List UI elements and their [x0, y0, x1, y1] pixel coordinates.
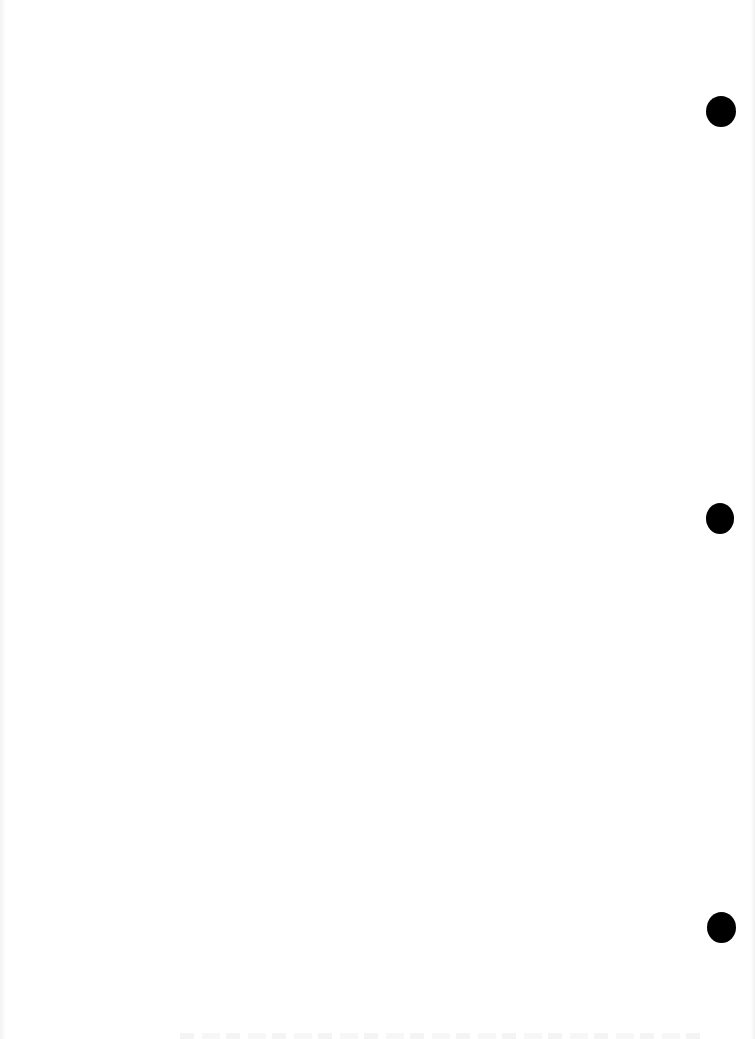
punch-hole-icon	[707, 912, 736, 943]
bottom-scan-noise	[180, 1033, 700, 1039]
blank-document-page	[0, 0, 755, 1039]
left-scan-edge	[0, 0, 6, 1039]
punch-hole-icon	[706, 96, 736, 127]
punch-hole-icon	[706, 503, 734, 534]
right-scan-edge	[751, 0, 755, 1039]
